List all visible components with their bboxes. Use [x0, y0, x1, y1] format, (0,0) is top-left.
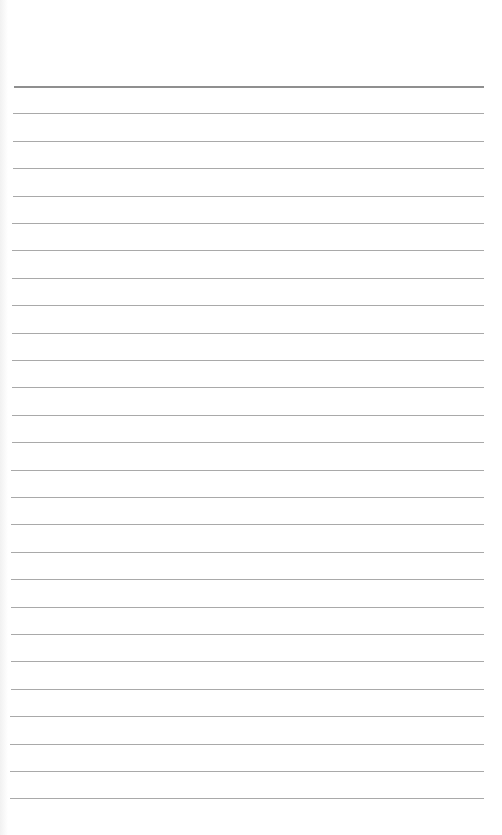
rule-line: [11, 579, 484, 580]
page-edge-shadow: [0, 0, 8, 835]
rule-line: [13, 196, 484, 197]
rule-line: [11, 497, 484, 498]
rule-line: [11, 689, 484, 690]
lined-paper-page: [0, 0, 502, 835]
top-rule-line: [14, 86, 484, 88]
rule-line: [10, 744, 484, 745]
rule-line: [12, 278, 484, 279]
rule-line: [11, 470, 484, 471]
rule-line: [13, 113, 484, 114]
rule-line: [10, 798, 484, 799]
rule-line: [11, 607, 484, 608]
rule-line: [12, 333, 484, 334]
rule-line: [12, 442, 484, 443]
rule-line: [12, 250, 484, 251]
rule-line: [10, 716, 484, 717]
rule-line: [11, 661, 484, 662]
rule-line: [10, 771, 484, 772]
rule-line: [13, 141, 484, 142]
rule-line: [12, 223, 484, 224]
rule-line: [12, 387, 484, 388]
rule-line: [12, 415, 484, 416]
rule-line: [11, 524, 484, 525]
rule-line: [11, 552, 484, 553]
rule-line: [12, 305, 484, 306]
rule-line: [11, 634, 484, 635]
rule-line: [12, 360, 484, 361]
rule-line: [13, 168, 484, 169]
